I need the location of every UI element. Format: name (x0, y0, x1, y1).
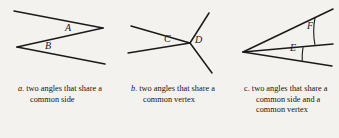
ray-b-lower-right (190, 43, 212, 73)
segment-a-middle-common-side (17, 28, 103, 47)
angle-label-F: F (307, 21, 313, 31)
caption-a-text: two angles that share a common side (26, 84, 102, 104)
figure-page: A B a. two angles that share a common si… (0, 0, 339, 138)
caption-c-marker: c. (244, 84, 250, 93)
segment-a-bottom (17, 47, 105, 64)
diagram-c-svg (226, 0, 339, 78)
caption-c: c. two angles that share a common side a… (226, 84, 339, 116)
caption-b-text: two angles that share a common vertex (139, 84, 215, 104)
panel-c: E F c. two angles that share a common si… (226, 0, 339, 138)
angle-label-E: E (290, 43, 296, 53)
angle-label-B: B (45, 41, 51, 51)
angle-label-C: C (164, 34, 171, 44)
arc-angle-E (302, 48, 303, 61)
angle-label-A: A (65, 23, 71, 33)
ray-c-lower (243, 52, 332, 66)
diagram-a-svg (0, 0, 113, 78)
segment-a-top (14, 11, 103, 28)
caption-c-text: two angles that share a common side and … (252, 84, 328, 114)
angle-label-D: D (195, 35, 202, 45)
ray-b-upper-left (131, 26, 190, 43)
arc-angle-F (314, 18, 315, 45)
diagram-a: A B (0, 0, 113, 78)
panel-a: A B a. two angles that share a common si… (0, 0, 113, 138)
caption-a: a. two angles that share a common side (0, 84, 113, 105)
diagram-c: E F (226, 0, 339, 78)
caption-a-marker: a. (18, 84, 24, 93)
panel-b: C D b. two angles that share a common ve… (113, 0, 226, 138)
caption-b: b. two angles that share a common vertex (113, 84, 226, 105)
ray-b-lower-left (128, 43, 190, 53)
caption-b-marker: b. (131, 84, 137, 93)
diagram-b: C D (113, 0, 226, 78)
